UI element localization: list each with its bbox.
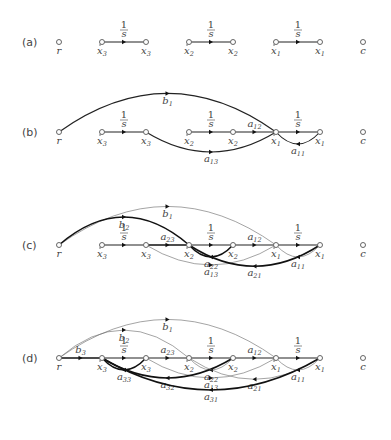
gain-label: a31: [204, 391, 218, 404]
gain-label: b1: [162, 208, 173, 221]
node-label-x3: x3: [141, 361, 151, 374]
node-label-xd2: x2: [184, 248, 194, 261]
panel-b: (b)1s1sa121sb1a13a11rx3x3x2x2x1x1c: [22, 91, 366, 166]
edge-r-xd1: b1: [59, 91, 276, 132]
integrator-denominator: s: [208, 344, 213, 355]
gain-label: a12: [247, 118, 261, 131]
derivative-dot: [99, 247, 100, 248]
integrator-denominator: s: [208, 118, 213, 129]
node-xd2: [187, 243, 192, 248]
derivative-dot: [99, 360, 100, 361]
arrowhead-icon: [122, 356, 126, 360]
node-label-xd1: x1: [271, 361, 281, 374]
edge-xd1-x1: 1s: [279, 19, 318, 44]
edge-x1-xd1: a11: [276, 132, 320, 158]
node-r: [57, 40, 62, 45]
edge-x3-xd1: a13: [146, 132, 276, 166]
edge-xd2-x2: 1s: [192, 335, 231, 360]
node-xd1: [274, 40, 279, 45]
edge-xd1-x1: 1s: [279, 109, 318, 134]
node-xd2: [187, 356, 192, 361]
integrator-denominator: s: [121, 231, 126, 242]
panel-label: (b): [22, 126, 38, 139]
derivative-dot: [186, 247, 187, 248]
node-x3: [144, 130, 149, 135]
gain-label: a12: [247, 344, 261, 357]
node-label-xd2: x2: [184, 361, 194, 374]
integrator-denominator: s: [208, 231, 213, 242]
node-label-xd1: x1: [271, 135, 281, 148]
node-label-xd2: x2: [184, 135, 194, 148]
node-r: [57, 356, 62, 361]
node-x2: [231, 130, 236, 135]
node-x3: [144, 356, 149, 361]
node-x3: [144, 40, 149, 45]
node-xd3: [100, 40, 105, 45]
node-x2: [231, 243, 236, 248]
edge-xd2-x2: 1s: [192, 109, 231, 134]
node-xd2: [187, 40, 192, 45]
integrator-denominator: s: [121, 118, 126, 129]
edge-xd1-x1: 1s: [279, 335, 318, 360]
edge-xd3-x3: 1s: [105, 109, 144, 134]
node-label-x2: x2: [228, 361, 238, 374]
gain-label: a21: [247, 380, 261, 393]
arrowhead-icon: [209, 243, 213, 247]
arrowhead-icon: [209, 40, 213, 44]
edge-xd2-x2: 1s: [192, 222, 231, 247]
gain-label: b1: [162, 321, 173, 334]
gain-label: a21: [247, 267, 261, 280]
gain-label: a11: [291, 258, 305, 271]
derivative-dot: [99, 134, 100, 135]
node-x1: [318, 356, 323, 361]
node-label-c: c: [360, 45, 366, 56]
node-c: [361, 243, 366, 248]
panel-c: (c)1sa231sa121sb1b2a13a22a21a11rx3x3x2x2…: [22, 204, 366, 280]
node-x1: [318, 130, 323, 135]
node-xd3: [100, 356, 105, 361]
node-r: [57, 130, 62, 135]
node-xd1: [274, 243, 279, 248]
node-label-r: r: [57, 135, 63, 146]
node-c: [361, 130, 366, 135]
derivative-dot: [186, 360, 187, 361]
node-label-x2: x2: [228, 45, 238, 58]
derivative-dot: [273, 247, 274, 248]
arrowhead-icon: [122, 40, 126, 44]
gain-label: a11: [291, 371, 305, 384]
derivative-dot: [273, 360, 274, 361]
panel-a: (a)1s1s1srx3x3x2x2x1x1c: [22, 19, 366, 58]
node-label-c: c: [360, 361, 366, 372]
panel-label: (d): [22, 352, 38, 365]
node-xd1: [274, 356, 279, 361]
node-x1: [318, 243, 323, 248]
node-label-x3: x3: [141, 135, 151, 148]
node-label-xd1: x1: [271, 45, 281, 58]
node-label-xd1: x1: [271, 248, 281, 261]
edge-xd3-x3: 1s: [105, 19, 144, 44]
derivative-dot: [186, 134, 187, 135]
node-xd1: [274, 130, 279, 135]
derivative-dot: [273, 134, 274, 135]
node-label-r: r: [57, 361, 63, 372]
node-label-r: r: [57, 45, 63, 56]
integrator-denominator: s: [121, 344, 126, 355]
node-xd3: [100, 130, 105, 135]
edge-x3-xd2: a23: [149, 344, 187, 360]
gain-label: a11: [291, 145, 305, 158]
node-label-x2: x2: [228, 248, 238, 261]
edge-xd1-x1: 1s: [279, 222, 318, 247]
node-label-xd2: x2: [184, 45, 194, 58]
edge-xd2-x2: 1s: [192, 19, 231, 44]
node-label-r: r: [57, 248, 63, 259]
node-label-x1: x1: [315, 248, 325, 261]
gain-label: a33: [117, 371, 131, 384]
node-c: [361, 356, 366, 361]
node-label-x1: x1: [315, 45, 325, 58]
arrowhead-icon: [209, 356, 213, 360]
integrator-denominator: s: [295, 28, 300, 39]
integrator-denominator: s: [295, 231, 300, 242]
panel-label: (c): [22, 239, 37, 252]
arrowhead-icon: [296, 130, 300, 134]
arrowhead-icon: [122, 130, 126, 134]
